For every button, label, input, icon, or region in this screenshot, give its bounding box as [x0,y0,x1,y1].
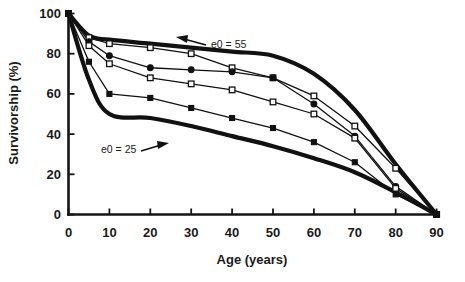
y-tick-label-0: 0 [54,207,61,222]
marker-series-open-square-upper-10 [107,41,113,47]
marker-series-open-square-upper-30 [188,51,194,57]
marker-series-open-square-upper-70 [352,123,358,129]
marker-series-open-square-lower-50 [270,99,276,105]
x-tick-label-70: 70 [348,225,362,240]
annotation-lower-label: e0 = 25 [101,143,136,155]
annotation-upper-arrowhead-icon [176,35,188,43]
marker-series-filled-circle-10 [107,53,113,59]
x-tick-label-40: 40 [225,225,239,240]
x-tick-label-90: 90 [429,225,443,240]
annotation-upper-label: e0 = 55 [211,38,246,50]
marker-series-open-square-lower-30 [188,81,194,87]
marker-series-filled-square-0 [66,11,71,16]
y-tick-label-40: 40 [47,127,61,142]
marker-series-filled-square-70 [352,160,357,165]
x-tick-label-80: 80 [388,225,402,240]
marker-series-filled-square-50 [271,126,276,131]
marker-series-filled-square-20 [148,95,153,100]
marker-series-open-square-lower-80 [393,186,399,192]
marker-series-filled-circle-30 [188,67,194,73]
marker-series-open-square-lower-40 [229,87,235,93]
marker-series-filled-square-40 [230,116,235,121]
y-axis-title: Survivorship (%) [6,61,21,164]
annotation-lower: e0 = 25 [101,141,169,155]
x-axis-title: Age (years) [217,252,288,267]
x-tick-label-10: 10 [102,225,116,240]
curve-lower-bound-e0-25 [69,14,437,215]
x-tick-label-30: 30 [184,225,198,240]
x-tick-label-20: 20 [143,225,157,240]
marker-series-filled-square-10 [107,91,112,96]
marker-series-filled-square-5 [86,59,91,64]
y-tick-label-80: 80 [47,46,61,61]
marker-series-filled-circle-60 [311,101,317,107]
chart-canvas: 100 80 60 40 20 0 0 10 20 30 40 [0,0,465,282]
y-tick-label-100: 100 [39,6,61,21]
marker-series-filled-circle-50 [270,75,276,81]
data-curves-layer [69,14,437,215]
marker-series-filled-square-60 [311,140,316,145]
annotation-lower-arrowhead-icon [157,141,169,149]
marker-series-open-square-lower-5 [86,43,92,49]
marker-series-filled-square-80 [393,192,398,197]
y-tick-label-20: 20 [47,167,61,182]
marker-series-open-square-lower-70 [352,135,358,141]
x-axis-tick-labels: 0 10 20 30 40 50 60 70 80 90 [65,225,444,240]
marker-series-open-square-upper-20 [148,45,154,51]
y-axis-tick-labels: 100 80 60 40 20 0 [39,6,61,222]
x-tick-label-0: 0 [65,225,72,240]
marker-series-open-square-lower-20 [148,75,154,81]
marker-series-open-square-lower-10 [107,61,113,67]
marker-series-filled-circle-20 [147,65,153,71]
marker-series-filled-square-30 [189,105,194,110]
survivorship-chart-figure: 100 80 60 40 20 0 0 10 20 30 40 [0,0,465,282]
marker-series-open-square-upper-60 [311,93,317,99]
marker-series-open-square-lower-60 [311,111,317,117]
y-tick-label-60: 60 [47,86,61,101]
marker-series-open-square-upper-80 [393,165,399,171]
x-tick-label-50: 50 [266,225,280,240]
marker-series-filled-square-90 [434,212,439,217]
marker-series-filled-circle-40 [229,69,235,75]
x-tick-label-60: 60 [307,225,321,240]
